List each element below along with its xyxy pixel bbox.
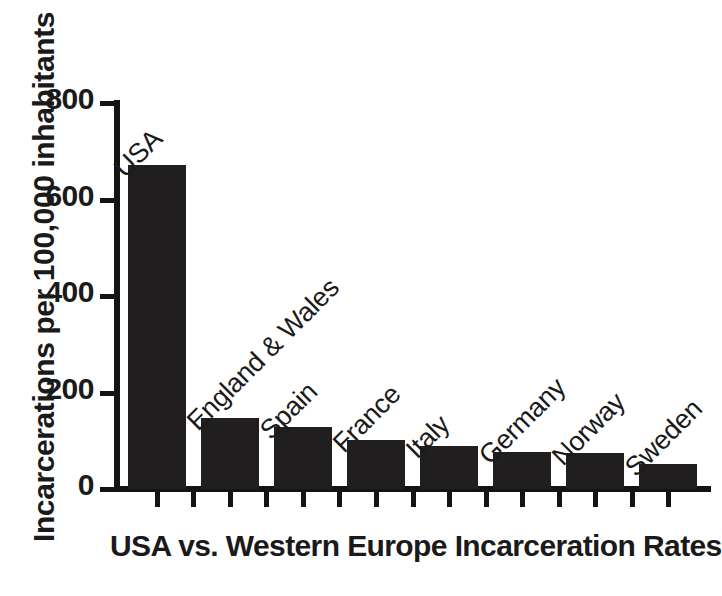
- y-tick-label: 800: [45, 82, 94, 116]
- category-label: England & Wales: [181, 273, 345, 437]
- x-tick: [593, 491, 598, 507]
- y-tick: [100, 391, 115, 396]
- x-tick: [264, 491, 269, 507]
- x-tick: [411, 491, 416, 507]
- x-tick: [155, 491, 160, 507]
- y-tick-label: 400: [45, 275, 94, 309]
- x-tick: [337, 491, 342, 507]
- plot-area: 0200400600800 USAEngland & WalesSpainFra…: [0, 0, 711, 520]
- x-tick: [191, 491, 196, 507]
- y-tick: [100, 294, 115, 299]
- x-tick: [557, 491, 562, 507]
- x-tick: [447, 491, 452, 507]
- x-tick: [630, 491, 635, 507]
- bar: [128, 165, 186, 489]
- y-tick: [100, 101, 115, 106]
- y-tick: [100, 487, 115, 492]
- chart-title: USA vs. Western Europe Incarceration Rat…: [110, 529, 722, 563]
- x-tick: [666, 491, 671, 507]
- y-tick: [100, 198, 115, 203]
- x-tick: [374, 491, 379, 507]
- y-tick-label: 200: [45, 372, 94, 406]
- y-tick-label: 0: [78, 468, 94, 502]
- x-tick: [228, 491, 233, 507]
- x-tick: [484, 491, 489, 507]
- x-tick: [301, 491, 306, 507]
- x-tick: [520, 491, 525, 507]
- y-tick-label: 600: [45, 179, 94, 213]
